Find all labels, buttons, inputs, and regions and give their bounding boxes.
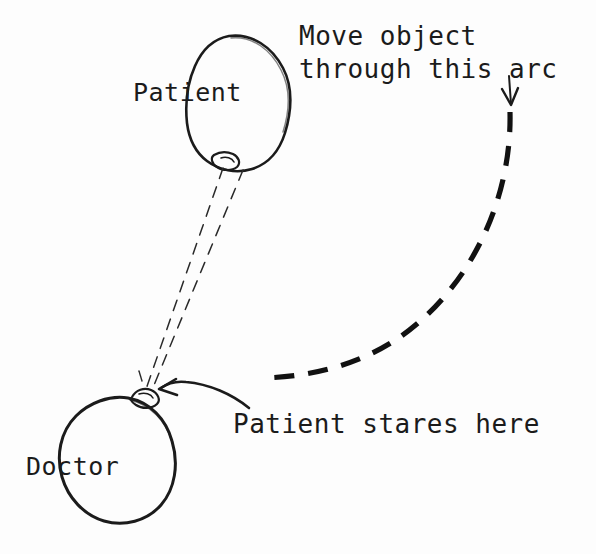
diagram-canvas: Patient Doctor Patient stares here Move … (0, 0, 596, 554)
motion-arc (262, 112, 510, 378)
label-doctor: Doctor (26, 452, 119, 481)
sight-line-left (145, 168, 223, 392)
label-patient: Patient (133, 78, 242, 107)
label-move-object-line1: Move object (299, 21, 477, 51)
sight-line-right (152, 170, 243, 390)
label-patient-stares-here: Patient stares here (233, 409, 540, 439)
patient-nose-icon (212, 152, 239, 170)
stare-pointer-arrow-icon (159, 379, 249, 408)
sketch-tick-mark (139, 371, 142, 381)
label-move-object-line2: through this arc (299, 54, 557, 84)
